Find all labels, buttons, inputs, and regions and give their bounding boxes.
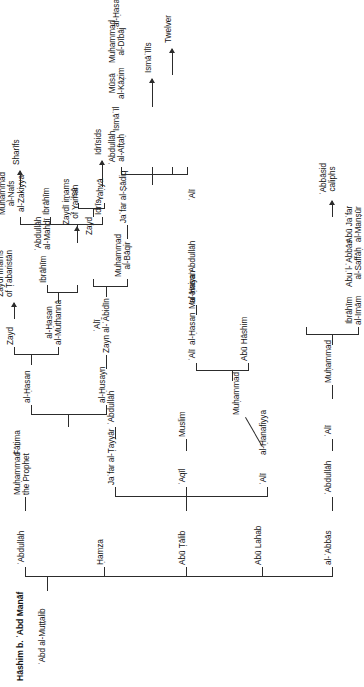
- node-ismail: Ismāʿīl: [112, 107, 121, 131]
- node-abu-talib: Abū Ṭālib: [178, 531, 187, 565]
- node-abdullah-al-aftah: ʿAbdullāh al-Afṭaḥ: [108, 131, 127, 165]
- arrow-to-zaydi-tabaristan: [14, 303, 15, 319]
- connector-h-g1-g2: [47, 577, 48, 591]
- node-al-abbas: al-ʿAbbās: [324, 530, 333, 565]
- node-abu-lahab: Abū Lahab: [254, 526, 263, 565]
- terminal-zaydi-imams-tabaristan: Zaydī imams of Ṭabaristān: [0, 250, 15, 297]
- arrow-to-zaydi-yaman: [77, 227, 78, 243]
- connector-h-musa-al-kazim: [172, 167, 173, 175]
- connector-h-ali-g5: [196, 363, 197, 371]
- connector-h-abbasid-stem: [332, 335, 333, 345]
- connector-h-abu-talib: [186, 567, 187, 577]
- connector-h-zayn-stem: [106, 287, 107, 297]
- node-abu-hashim: Abū Hāshim: [240, 317, 249, 361]
- connector-h-jafar-stem: [152, 175, 153, 185]
- connector-h-ali-b-abdullah: [332, 439, 333, 451]
- connector-h-al-hasan-stem: [31, 355, 32, 365]
- node-al-hasan-b-muhammad: al-Ḥasan: [188, 313, 197, 345]
- node-abdullah-b-abbas: ʿAbdullāh: [324, 461, 333, 495]
- node-hashim-b-abd-manaf: Hāshim b. ʿAbd Manāf: [16, 592, 25, 681]
- node-ali-g5: ʿAlī: [188, 349, 197, 361]
- node-muhammad-abbasid: Muḥammad: [324, 340, 333, 383]
- connector-h-muhammad-al-nafs: [20, 217, 21, 225]
- connector-h-al-baqir: [127, 279, 128, 287]
- node-abdullah-b-jafar: ʿAbdullāh: [107, 391, 116, 425]
- node-al-husayn: al-Ḥusayn: [98, 367, 107, 403]
- node-ibrahim-g8: Ibrāhīm: [42, 188, 51, 215]
- connector-h-abdullah-b-abbas: [332, 497, 333, 511]
- node-abdullah-g6: ʿAbdullāh: [188, 241, 197, 275]
- connector-v-muhammad-hanafiyya-children: [196, 370, 248, 371]
- connector-h-ali-fatima-stem: [68, 415, 69, 427]
- connector-h-abu-talib-children: [186, 497, 187, 511]
- connector-h-abdullah: [25, 567, 26, 577]
- terminal-idrisids: Idrīsids: [94, 129, 103, 155]
- connector-h-al-hasan: [31, 405, 32, 415]
- node-muhammad-al-baqir: Muḥammad al-Bāqir: [114, 234, 133, 277]
- connector-h-muhammad-al-dibaj: [187, 167, 188, 175]
- connector-h-abdullah-al-aftah: [121, 167, 122, 175]
- arrow-to-sharifs: [20, 171, 21, 187]
- connector-v-zayn-children: [93, 286, 127, 287]
- node-abu-jafar-al-mansur: Abū Jaʿfar al-Manṣūr: [345, 206, 364, 243]
- connector-h-muhammad-prophet: [25, 497, 26, 511]
- connector-h-aqil: [186, 487, 187, 497]
- connector-h-abu-jafar-al-mansur: [306, 327, 307, 335]
- arrow-to-twelver: [172, 49, 173, 75]
- terminal-abbasid-caliphs: ʿAbbāsid caliphs: [319, 163, 338, 195]
- connector-h-muhammad-hanafiyya-stem: [232, 371, 233, 381]
- node-al-hasan-g6: al-Ḥasan: [188, 271, 197, 303]
- connector-h-yahya: [104, 203, 105, 209]
- node-hamza: Ḥamza: [96, 539, 105, 565]
- terminal-sharifs: Sharīfs: [12, 139, 21, 165]
- node-muhammad-the-prophet: Muḥammad the Prophet: [13, 452, 32, 495]
- connector-h-abu-hashim: [248, 363, 249, 371]
- terminal-twelver: Twelver: [164, 15, 173, 43]
- connector-h-abdullah-al-mahdi: [77, 285, 78, 293]
- node-al-hasan-g5: al-Ḥasan: [23, 371, 32, 403]
- terminal-ismailis: Ismāʿīlīs: [144, 43, 153, 73]
- node-musa-al-kazim: Mūsā al-Kāẓim: [108, 68, 127, 99]
- arrow-to-abbasid-caliphs: [332, 201, 333, 217]
- node-abul-abbas-al-saffah: Abuʾl-ʿAbbās al-Saffāḥ: [345, 240, 364, 287]
- connector-h-al-hasan-g6: [196, 305, 197, 315]
- node-al-hasan-al-muthanna: al-Ḥasan al-Muthannā: [45, 300, 64, 345]
- node-al-hanafiyya: al-Ḥanafiyya: [259, 410, 268, 455]
- connector-h-zayd: [14, 347, 15, 355]
- connector-h-jafar-al-tayyar: [115, 487, 116, 497]
- connector-h-ibrahim-g7: [47, 285, 48, 293]
- connector-v-al-muthanna-children: [47, 292, 77, 293]
- connector-h-muslim: [186, 439, 187, 451]
- arrow-to-ismailis: [152, 79, 153, 107]
- connector-h-zayn-al-abidin: [106, 355, 107, 369]
- terminal-zaydi-imams-yaman: Zaydī imams of Yaman: [62, 179, 81, 225]
- connector-h-ibrahim-g8: [50, 217, 51, 225]
- node-muhammad-b-al-hanafiyya: Muḥammad: [232, 372, 241, 415]
- connector-h-jafar-al-sadiq: [127, 225, 128, 239]
- node-yahya: Yaḥyā: [96, 179, 105, 201]
- connector-h-ibrahim-al-imam: [358, 327, 359, 335]
- connector-v-abu-talib-children: [115, 496, 267, 497]
- node-abdullah-g2: ʿAbdullāh: [17, 531, 26, 565]
- connector-h-hamza: [104, 567, 105, 577]
- connector-h-idris: [102, 217, 103, 225]
- connector-h-al-abbas: [332, 567, 333, 577]
- connector-v-jafar-children: [121, 174, 187, 175]
- connector-h-al-husayn: [106, 405, 107, 415]
- node-al-hasan-g8: al-Ḥasan: [112, 0, 121, 27]
- node-ibrahim-g7: Ibrāhīm: [39, 256, 48, 283]
- node-jafar-al-sadiq: Jaʿfar al-Ṣādiq: [119, 171, 128, 223]
- connector-h-zayd-g7: [93, 279, 94, 287]
- node-muslim: Muslim: [178, 411, 187, 437]
- node-idris: Idrīs: [94, 199, 103, 215]
- connector-h-ali: [267, 487, 268, 497]
- node-ibrahim-al-imam: Ibrāhīm al-Imām: [345, 296, 364, 325]
- node-zayd-b-al-hasan: Zayd: [6, 327, 15, 345]
- connector-h-muhammad-abbasid: [332, 385, 333, 399]
- node-zayd-g7: Zayd: [85, 217, 94, 235]
- arrow-to-idrisids: [102, 161, 103, 187]
- node-fatima: Fāṭima: [13, 430, 22, 455]
- node-abd-al-muttalib: ʿAbd al-Muṭṭalib: [38, 608, 47, 665]
